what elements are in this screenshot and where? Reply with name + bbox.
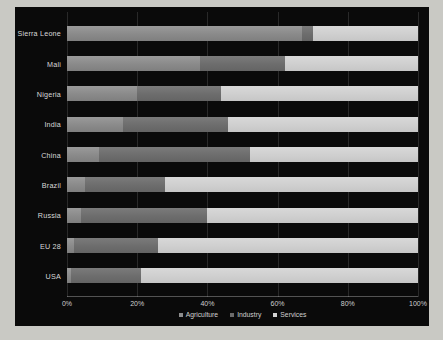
gridline-100	[418, 12, 419, 297]
category-label: USA	[46, 271, 61, 280]
category-label: Brazil	[42, 180, 61, 189]
category-label: Russia	[38, 211, 61, 220]
bar-segment-agriculture[interactable]	[67, 177, 85, 192]
bar-segment-industry[interactable]	[123, 117, 228, 132]
bar-row[interactable]: Nigeria	[67, 86, 418, 101]
bar-row[interactable]: USA	[67, 268, 418, 283]
bar-segment-services[interactable]	[228, 117, 418, 132]
x-axis-line	[67, 296, 418, 297]
legend-swatch-services-icon	[273, 313, 277, 317]
legend-swatch-agriculture-icon	[179, 313, 183, 317]
legend-label: Industry	[237, 311, 261, 318]
category-label: Mali	[47, 59, 61, 68]
bar-segment-services[interactable]	[250, 147, 418, 162]
x-tick-label: 100%	[409, 300, 427, 307]
bar-segment-services[interactable]	[207, 208, 418, 223]
chart-legend: AgricultureIndustryServices	[67, 311, 418, 318]
x-tick-label: 20%	[130, 300, 144, 307]
x-tick-label: 40%	[200, 300, 214, 307]
bar-row[interactable]: India	[67, 117, 418, 132]
bar-segment-agriculture[interactable]	[67, 26, 302, 41]
bar-segment-services[interactable]	[285, 56, 418, 71]
bar-segment-industry[interactable]	[99, 147, 250, 162]
bar-segment-agriculture[interactable]	[67, 117, 123, 132]
category-label: China	[41, 150, 61, 159]
plot-area: Sierra LeoneMaliNigeriaIndiaChinaBrazilR…	[67, 12, 418, 297]
bar-segment-agriculture[interactable]	[67, 56, 200, 71]
bar-segment-services[interactable]	[158, 238, 418, 253]
legend-item-industry[interactable]: Industry	[230, 311, 261, 318]
bar-row[interactable]: Sierra Leone	[67, 26, 418, 41]
legend-label: Services	[280, 311, 306, 318]
category-label: Sierra Leone	[17, 29, 61, 38]
legend-item-services[interactable]: Services	[273, 311, 306, 318]
chart-panel: Sierra LeoneMaliNigeriaIndiaChinaBrazilR…	[15, 7, 429, 326]
bar-segment-industry[interactable]	[71, 268, 141, 283]
x-tick-label: 80%	[341, 300, 355, 307]
bar-segment-services[interactable]	[165, 177, 418, 192]
bar-segment-agriculture[interactable]	[67, 238, 74, 253]
bar-segment-industry[interactable]	[200, 56, 284, 71]
category-label: EU 28	[40, 241, 61, 250]
bar-segment-agriculture[interactable]	[67, 86, 137, 101]
bar-segment-industry[interactable]	[85, 177, 166, 192]
bar-segment-industry[interactable]	[74, 238, 158, 253]
category-label: Nigeria	[37, 89, 61, 98]
x-tick-label: 60%	[271, 300, 285, 307]
legend-label: Agriculture	[186, 311, 219, 318]
legend-item-agriculture[interactable]: Agriculture	[179, 311, 219, 318]
bar-row[interactable]: EU 28	[67, 238, 418, 253]
category-label: India	[44, 120, 61, 129]
bar-row[interactable]: Brazil	[67, 177, 418, 192]
bar-segment-services[interactable]	[141, 268, 418, 283]
bar-row[interactable]: Mali	[67, 56, 418, 71]
legend-swatch-industry-icon	[230, 313, 234, 317]
bar-segment-services[interactable]	[313, 26, 418, 41]
x-tick-label: 0%	[62, 300, 72, 307]
bar-segment-services[interactable]	[221, 86, 418, 101]
bar-segment-industry[interactable]	[81, 208, 207, 223]
bar-row[interactable]: Russia	[67, 208, 418, 223]
bar-segment-industry[interactable]	[137, 86, 221, 101]
bar-segment-industry[interactable]	[302, 26, 313, 41]
bar-segment-agriculture[interactable]	[67, 208, 81, 223]
bar-row[interactable]: China	[67, 147, 418, 162]
bar-segment-agriculture[interactable]	[67, 147, 99, 162]
chart-screenshot: Sierra LeoneMaliNigeriaIndiaChinaBrazilR…	[0, 0, 443, 340]
